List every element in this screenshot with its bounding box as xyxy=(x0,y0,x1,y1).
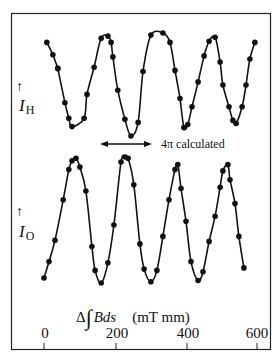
lower-fit-curve xyxy=(44,155,244,283)
data-point xyxy=(160,234,166,240)
data-point xyxy=(233,121,239,127)
data-point xyxy=(177,96,183,102)
upper-y-label-base: I xyxy=(19,96,25,115)
data-point xyxy=(84,92,90,98)
data-point xyxy=(105,260,111,266)
lower-y-label-base: I xyxy=(19,222,25,241)
lower-y-label: IO xyxy=(19,223,34,242)
data-point xyxy=(92,268,98,274)
data-point xyxy=(236,234,242,240)
data-point xyxy=(172,68,178,74)
data-point xyxy=(252,40,258,46)
data-point xyxy=(55,66,61,72)
data-point xyxy=(201,53,207,59)
x-axis-label: Δ∫Bds(mT mm) xyxy=(76,305,190,331)
x-label-integral: ∫ xyxy=(86,305,92,330)
data-point xyxy=(206,39,212,45)
data-point xyxy=(141,266,147,272)
data-point xyxy=(232,201,238,207)
data-point xyxy=(239,104,245,110)
data-point xyxy=(83,188,89,194)
data-point xyxy=(125,156,131,162)
data-point xyxy=(212,34,218,40)
upper-y-label: IH xyxy=(19,97,34,116)
data-point xyxy=(110,54,116,60)
x-label-expr: Bds xyxy=(94,309,117,325)
x-tick-600: 600 xyxy=(246,325,269,342)
data-point xyxy=(131,182,137,188)
x-label-units: (mT mm) xyxy=(132,309,190,325)
data-point xyxy=(77,164,83,170)
data-point xyxy=(108,40,114,46)
data-point xyxy=(73,156,79,162)
data-point xyxy=(115,87,121,93)
data-point xyxy=(220,82,226,88)
data-point xyxy=(217,184,223,190)
upper-data-points xyxy=(44,30,258,139)
data-point xyxy=(69,124,75,130)
data-point xyxy=(166,197,172,203)
data-point xyxy=(226,104,232,110)
data-point xyxy=(44,40,50,46)
x-tick-400: 400 xyxy=(177,325,200,342)
data-point xyxy=(50,52,56,58)
data-point xyxy=(148,32,154,38)
data-point xyxy=(140,69,146,75)
4pi-double-arrow xyxy=(100,141,152,147)
data-point xyxy=(105,33,111,39)
data-point xyxy=(128,133,134,139)
data-point xyxy=(227,177,233,183)
data-point xyxy=(66,116,72,122)
data-point xyxy=(111,222,117,228)
data-point xyxy=(148,279,154,285)
data-point xyxy=(217,59,223,65)
data-point xyxy=(178,186,184,192)
data-point xyxy=(185,122,191,128)
data-point xyxy=(195,79,201,85)
data-point xyxy=(189,104,195,110)
data-point xyxy=(188,259,194,265)
data-point xyxy=(41,275,47,281)
lower-y-arrow-icon: ↑ xyxy=(16,205,23,219)
data-point xyxy=(98,35,104,41)
data-point xyxy=(91,65,97,71)
data-point xyxy=(62,100,68,106)
upper-y-label-sub: H xyxy=(26,103,35,117)
data-point xyxy=(175,162,181,168)
x-tick-200: 200 xyxy=(106,325,129,342)
data-point xyxy=(81,116,87,122)
data-point xyxy=(160,30,166,36)
lower-y-label-sub: O xyxy=(26,229,35,243)
data-point xyxy=(167,40,173,46)
data-point xyxy=(225,162,231,168)
data-point xyxy=(154,268,160,274)
data-point xyxy=(118,159,124,165)
data-point xyxy=(183,219,189,225)
data-point xyxy=(66,167,72,173)
data-point xyxy=(195,278,201,284)
data-point xyxy=(212,213,218,219)
data-point xyxy=(60,197,66,203)
x-tick-0: 0 xyxy=(41,325,49,342)
data-point xyxy=(46,259,52,265)
data-point xyxy=(137,241,143,247)
data-point xyxy=(243,82,249,88)
data-point xyxy=(52,237,58,243)
data-point xyxy=(200,269,206,275)
data-point xyxy=(122,117,128,123)
upper-y-arrow-icon: ↑ xyxy=(16,80,23,94)
x-label-delta: Δ xyxy=(76,309,86,325)
data-point xyxy=(241,265,247,271)
data-point xyxy=(220,168,226,174)
data-point xyxy=(206,239,212,245)
data-point xyxy=(172,167,178,173)
data-point xyxy=(89,244,95,250)
data-point xyxy=(98,280,104,286)
x-axis-ticks xyxy=(44,343,257,349)
4pi-annotation: 4π calculated xyxy=(161,137,225,152)
data-point xyxy=(247,56,253,62)
data-point xyxy=(135,120,141,126)
